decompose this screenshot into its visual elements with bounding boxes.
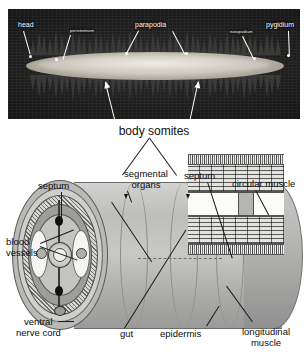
label-septum-right: septum (184, 170, 215, 181)
photo-label-peristomium: peristomium (70, 29, 94, 33)
leader-ventral-nerve-cord (58, 321, 74, 322)
circular-muscle-layer-bottom (188, 244, 284, 255)
leader-dot-peristomium (55, 58, 58, 61)
label-blood-vessels-line2: vessels (6, 247, 38, 258)
leader-dot-head (29, 55, 32, 58)
coelom-cavity (188, 192, 284, 216)
worm-body-highlight (38, 57, 270, 73)
parapodium (275, 75, 281, 92)
segment-ring-1 (120, 182, 148, 327)
photo-label-pygidium: pygidium (266, 21, 294, 28)
label-longitudinal-muscle-line1: longitudinal (228, 326, 304, 337)
photo-label-head: head (18, 21, 34, 28)
label-segmental-organs-line2: organs (114, 179, 178, 190)
label-ventral-nerve-cord-line2: nerve cord (16, 327, 61, 338)
label-blood-vessels-line1: blood (6, 236, 29, 247)
label-epidermis: epidermis (160, 328, 201, 339)
parapodium (275, 38, 281, 55)
longitudinal-muscle-layer-bottom (188, 216, 284, 244)
photo-label-parapodia: parapodia (135, 21, 166, 28)
photo-label-notopodium: notopodium (230, 30, 253, 34)
ventral-nerve-cord-structure (54, 306, 66, 316)
septum-block (238, 192, 254, 216)
leader-dot-notopodium (253, 57, 256, 60)
worm-photograph: head peristomium parapodia notopodium py… (8, 9, 300, 119)
label-longitudinal-muscle-line2: muscle (228, 337, 304, 348)
leader-dot-parapodia-left (125, 52, 128, 55)
segment-structure-diagram: septum segmental organs septum circular … (0, 140, 308, 359)
label-ventral-nerve-cord-line1: ventral (24, 316, 53, 327)
label-septum-left: septum (38, 180, 69, 191)
label-gut: gut (120, 328, 133, 339)
arrow-segmental-organs-a (124, 194, 128, 199)
leader-septum-left (61, 192, 62, 218)
body-somites-caption: body somites (0, 124, 308, 138)
lateral-vessel-right (76, 248, 87, 259)
ventral-blood-vessel (55, 286, 63, 296)
leader-dot-pygidium (287, 54, 290, 57)
arrow-segmental-organs-b (186, 194, 190, 199)
label-circular-muscle: circular muscle (232, 178, 295, 189)
leader-dot-parapodia-right (185, 52, 188, 55)
